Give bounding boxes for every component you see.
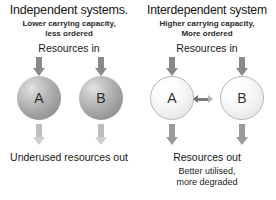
subtitle-line-1: Lower carrying capacity, [0,19,138,29]
out-note-line-2: more degraded [138,177,276,188]
output-arrow-a-interdependent [166,124,178,146]
input-arrow-b-independent [95,57,107,76]
output-arrow-a-independent [33,124,45,146]
node-a-interdependent: A [150,76,194,120]
systems-comparison-diagram: Independent systems. Lower carrying capa… [0,0,276,200]
node-label: B [79,90,123,106]
arrow-head-down-icon [166,68,178,76]
subtitle-line-1: Higher carrying capacity, [138,19,276,29]
arrow-head-down-icon [33,137,45,145]
node-b-interdependent: B [220,76,264,120]
panel-subtitle-independent: Lower carrying capacity, less ordered [0,19,138,38]
arrow-head-down-icon [95,68,107,76]
panel-subtitle-interdependent: Higher carrying capacity, More ordered [138,19,276,38]
input-arrow-b-interdependent [236,57,248,76]
panel-title-independent: Independent systems. [0,3,138,17]
arrow-head-down-icon [166,137,178,145]
resources-in-label-interdependent: Resources in [138,42,276,54]
arrow-head-down-icon [33,68,45,76]
input-arrow-a-independent [33,57,45,76]
subtitle-line-2: less ordered [0,29,138,39]
panel-independent-systems: Independent systems. Lower carrying capa… [0,0,138,200]
node-b-independent: B [79,76,123,120]
node-a-independent: A [17,76,61,120]
subtitle-line-2: More ordered [138,29,276,39]
out-note-line-1: Better utilised, [138,166,276,177]
resources-out-note-interdependent: Better utilised, more degraded [138,166,276,188]
node-label: B [221,90,263,106]
arrow-shaft [36,124,42,138]
arrow-shaft [98,124,104,138]
arrow-shaft [239,124,245,138]
arrow-shaft [169,124,175,138]
output-arrow-b-interdependent [236,124,248,146]
resources-in-label-independent: Resources in [0,42,138,54]
node-label: A [151,90,193,106]
interdependence-link-bidirectional-arrow-icon [193,95,213,104]
input-arrow-a-interdependent [166,57,178,76]
output-arrow-b-independent [95,124,107,146]
arrow-head-down-icon [236,68,248,76]
arrow-head-right-icon [208,95,213,103]
resources-out-label-interdependent: Resources out [138,151,276,163]
panel-title-interdependent: Interdependent system [138,3,276,17]
node-label: A [17,90,61,106]
arrow-head-down-icon [95,137,107,145]
resources-out-label-independent: Underused resources out [0,151,138,163]
arrow-head-down-icon [236,137,248,145]
